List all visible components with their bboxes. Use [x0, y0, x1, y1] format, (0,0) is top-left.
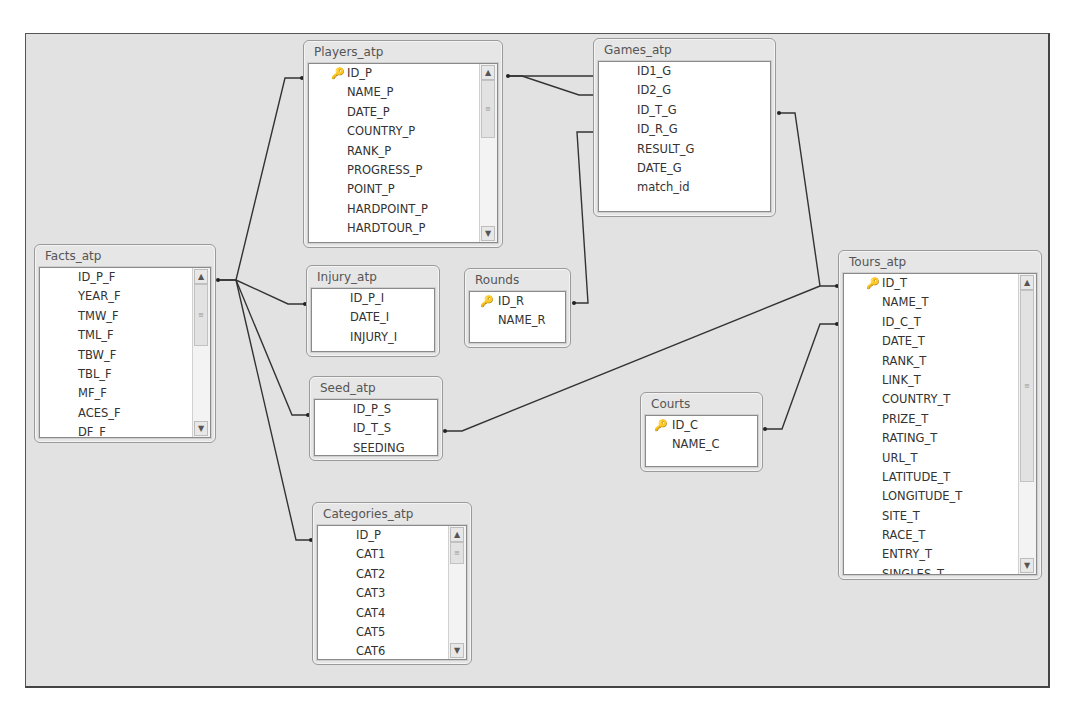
field-row[interactable]: LINK_T — [844, 371, 1036, 390]
field-row[interactable]: CAT2 — [318, 565, 466, 584]
field-row[interactable]: ID_P — [318, 526, 466, 545]
field-row[interactable]: 🔑ID_T — [844, 274, 1036, 293]
table-facts-atp[interactable]: Facts_atp ID_P_F YEAR_F TMW_F TML_F TBW_… — [34, 244, 216, 443]
field-row[interactable]: MF_F — [40, 384, 210, 403]
field-row[interactable]: CAT4 — [318, 604, 466, 623]
field-row[interactable]: CAT5 — [318, 623, 466, 642]
field-row[interactable]: ID_P_I — [312, 289, 434, 308]
field-row[interactable]: CAT6 — [318, 642, 466, 660]
field-row[interactable]: HARDPOINT_P — [309, 200, 497, 219]
field-row[interactable]: DATE_P — [309, 103, 497, 122]
field-row[interactable]: NAME_C — [646, 435, 757, 454]
field-list[interactable]: ID_P_S ID_T_S SEEDING — [314, 399, 438, 456]
field-row[interactable]: ID_T_G — [599, 101, 770, 120]
field-row[interactable]: ID2_G — [599, 81, 770, 100]
field-row[interactable]: SINGLES_T — [844, 565, 1036, 575]
scroll-up-icon[interactable]: ▲ — [194, 269, 208, 284]
table-title[interactable]: Tours_atp — [839, 251, 1041, 273]
field-row[interactable]: POINT_P — [309, 180, 497, 199]
field-row[interactable]: DATE_G — [599, 159, 770, 178]
field-row[interactable]: LATITUDE_T — [844, 468, 1036, 487]
table-title[interactable]: Courts — [641, 393, 762, 415]
table-courts[interactable]: Courts 🔑ID_C NAME_C — [640, 392, 763, 472]
field-row[interactable]: SITE_T — [844, 507, 1036, 526]
field-row[interactable]: CAT3 — [318, 584, 466, 603]
table-players-atp[interactable]: Players_atp 🔑ID_P NAME_P DATE_P COUNTRY_… — [303, 40, 503, 248]
field-row[interactable]: ID_P_S — [315, 400, 437, 419]
field-row[interactable]: 🔑ID_P — [309, 64, 497, 83]
field-row[interactable]: ID_R_G — [599, 120, 770, 139]
field-row[interactable]: CAT1 — [318, 545, 466, 564]
field-row[interactable]: CLAYPOINT_P — [309, 239, 497, 243]
scroll-up-icon[interactable]: ▲ — [1020, 275, 1034, 290]
field-row[interactable]: NAME_R — [470, 311, 565, 330]
field-row[interactable]: TML_F — [40, 326, 210, 345]
scroll-down-icon[interactable]: ▼ — [481, 226, 495, 241]
field-row[interactable]: HARDTOUR_P — [309, 219, 497, 238]
scroll-thumb[interactable]: ≡ — [481, 80, 495, 138]
scrollbar[interactable]: ▲ ≡ ▼ — [448, 526, 466, 659]
field-list[interactable]: 🔑ID_R NAME_R — [469, 291, 566, 343]
table-seed-atp[interactable]: Seed_atp ID_P_S ID_T_S SEEDING — [309, 376, 443, 461]
scrollbar[interactable]: ▲ ≡ ▼ — [479, 64, 497, 242]
table-title[interactable]: Injury_atp — [307, 266, 439, 288]
scroll-up-icon[interactable]: ▲ — [481, 65, 495, 80]
table-title[interactable]: Facts_atp — [35, 245, 215, 267]
field-row[interactable]: RESULT_G — [599, 140, 770, 159]
field-row[interactable]: COUNTRY_P — [309, 122, 497, 141]
field-row[interactable]: RANK_P — [309, 142, 497, 161]
scrollbar[interactable]: ▲ ≡ ▼ — [1018, 274, 1036, 574]
table-title[interactable]: Players_atp — [304, 41, 502, 63]
field-row[interactable]: YEAR_F — [40, 287, 210, 306]
field-row[interactable]: NAME_T — [844, 293, 1036, 312]
field-row[interactable]: INJURY_I — [312, 328, 434, 347]
field-row[interactable]: SEEDING — [315, 439, 437, 456]
table-games-atp[interactable]: Games_atp ID1_G ID2_G ID_T_G ID_R_G RESU… — [593, 38, 776, 217]
field-row[interactable]: 🔑ID_C — [646, 416, 757, 435]
field-row[interactable]: DATE_I — [312, 308, 434, 327]
field-row[interactable]: URL_T — [844, 449, 1036, 468]
table-categories-atp[interactable]: Categories_atp ID_P CAT1 CAT2 CAT3 CAT4 … — [312, 502, 472, 665]
field-row[interactable]: 🔑ID_R — [470, 292, 565, 311]
scroll-up-icon[interactable]: ▲ — [450, 527, 464, 542]
field-row[interactable]: ID1_G — [599, 62, 770, 81]
field-list[interactable]: 🔑ID_C NAME_C — [645, 415, 758, 467]
field-row[interactable]: ACES_F — [40, 404, 210, 423]
scroll-thumb[interactable]: ≡ — [194, 284, 208, 346]
field-list[interactable]: ID_P_I DATE_I INJURY_I — [311, 288, 435, 352]
field-row[interactable]: ID_P_F — [40, 268, 210, 287]
table-title[interactable]: Categories_atp — [313, 503, 471, 525]
table-title[interactable]: Rounds — [465, 269, 570, 291]
field-row[interactable]: ENTRY_T — [844, 545, 1036, 564]
field-row[interactable]: RACE_T — [844, 526, 1036, 545]
field-row[interactable]: TBW_F — [40, 346, 210, 365]
field-row[interactable]: DF_F — [40, 423, 210, 438]
field-list[interactable]: ID_P CAT1 CAT2 CAT3 CAT4 CAT5 CAT6 CAT7 … — [317, 525, 467, 660]
field-row[interactable]: LONGITUDE_T — [844, 487, 1036, 506]
scroll-thumb[interactable]: ≡ — [1020, 290, 1034, 482]
field-row[interactable]: ID_C_T — [844, 313, 1036, 332]
scroll-thumb[interactable]: ≡ — [450, 542, 464, 564]
table-title[interactable]: Seed_atp — [310, 377, 442, 399]
field-row[interactable]: NAME_P — [309, 83, 497, 102]
field-row[interactable]: PRIZE_T — [844, 410, 1036, 429]
field-row[interactable]: ID_T_S — [315, 419, 437, 438]
field-row[interactable]: match_id — [599, 178, 770, 197]
table-tours-atp[interactable]: Tours_atp 🔑ID_T NAME_T ID_C_T DATE_T RAN… — [838, 250, 1042, 580]
field-row[interactable]: COUNTRY_T — [844, 390, 1036, 409]
field-row[interactable]: PROGRESS_P — [309, 161, 497, 180]
scroll-down-icon[interactable]: ▼ — [1020, 558, 1034, 573]
field-list[interactable]: 🔑ID_T NAME_T ID_C_T DATE_T RANK_T LINK_T… — [843, 273, 1037, 575]
scroll-down-icon[interactable]: ▼ — [194, 421, 208, 436]
scroll-down-icon[interactable]: ▼ — [450, 643, 464, 658]
field-row[interactable]: TBL_F — [40, 365, 210, 384]
field-row[interactable]: TMW_F — [40, 307, 210, 326]
field-list[interactable]: ID_P_F YEAR_F TMW_F TML_F TBW_F TBL_F MF… — [39, 267, 211, 438]
field-row[interactable]: RATING_T — [844, 429, 1036, 448]
field-list[interactable]: 🔑ID_P NAME_P DATE_P COUNTRY_P RANK_P PRO… — [308, 63, 498, 243]
field-list[interactable]: ID1_G ID2_G ID_T_G ID_R_G RESULT_G DATE_… — [598, 61, 771, 212]
field-row[interactable]: RANK_T — [844, 352, 1036, 371]
scrollbar[interactable]: ▲ ≡ ▼ — [192, 268, 210, 437]
table-rounds[interactable]: Rounds 🔑ID_R NAME_R — [464, 268, 571, 348]
table-injury-atp[interactable]: Injury_atp ID_P_I DATE_I INJURY_I — [306, 265, 440, 357]
